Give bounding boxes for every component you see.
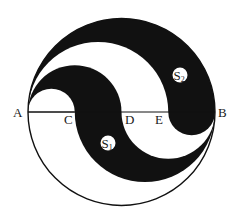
point-label-E: E bbox=[155, 112, 163, 127]
geometry-diagram: S1 S2 A C D E B bbox=[0, 0, 238, 214]
point-label-D: D bbox=[125, 112, 134, 127]
point-label-B: B bbox=[218, 105, 227, 120]
point-label-C: C bbox=[64, 112, 73, 127]
point-label-A: A bbox=[13, 105, 23, 120]
